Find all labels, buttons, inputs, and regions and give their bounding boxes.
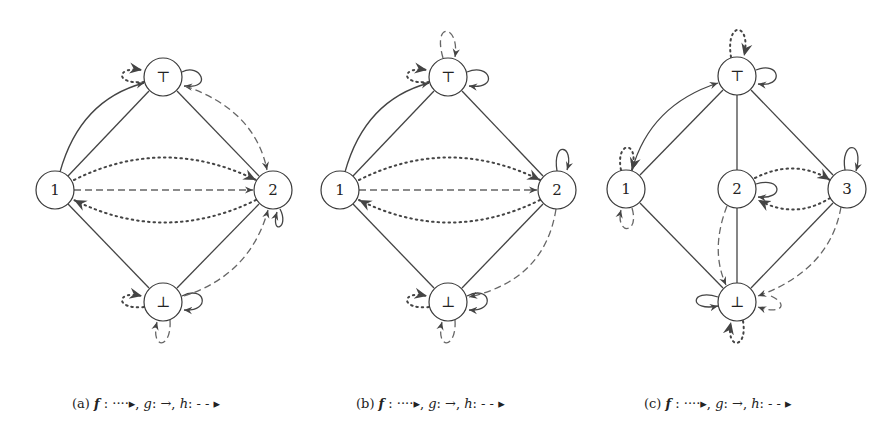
h-loop-bot [758, 296, 781, 310]
caption-g-symbol: : →, [152, 396, 176, 411]
f-edge-1-2 [359, 158, 540, 181]
svg-text:⊤: ⊤ [156, 68, 170, 86]
caption-f-symbol: : ····▸, [671, 396, 711, 411]
g-edge-1-top [60, 83, 144, 172]
h-loop-bot [441, 320, 456, 343]
svg-text:⊤: ⊤ [730, 67, 744, 85]
f-edge-2-1 [74, 200, 256, 223]
lattice-edge-1-top [640, 90, 723, 175]
h-edge-bot-2 [184, 210, 268, 296]
node-1: 1 [36, 171, 74, 209]
node-bot: ⊥ [144, 283, 182, 321]
svg-text:2: 2 [732, 180, 742, 198]
g-loop-2 [556, 149, 568, 171]
caption-h: h [747, 396, 760, 411]
svg-text:⊥: ⊥ [730, 293, 744, 311]
caption-g: g [711, 396, 723, 411]
panel-c: ⊤ 1 2 3 ⊥ [607, 30, 866, 343]
panel-a: ⊤ 1 2 ⊥ [36, 58, 292, 343]
caption-c: (c) f : ····▸, g: →, h: - - ▸ [644, 396, 792, 411]
caption-b: (b) f : ····▸, g: →, h: - - ▸ [356, 396, 505, 411]
node-1: 1 [321, 171, 359, 209]
caption-h: h [176, 396, 189, 411]
caption-h-symbol: : - - ▸ [473, 396, 505, 411]
caption-g: g [139, 396, 151, 411]
f-loop-1 [620, 148, 634, 171]
svg-text:⊥: ⊥ [441, 293, 455, 311]
f-loop-bot [730, 321, 744, 343]
caption-tag: (a) [72, 396, 90, 411]
lattice-edge-1-bot [640, 203, 723, 288]
node-bot: ⊥ [429, 283, 467, 321]
g-loop-top [182, 70, 201, 87]
svg-text:1: 1 [621, 180, 631, 198]
f-edge-1-2 [74, 158, 256, 181]
caption-f-symbol: : ····▸, [100, 396, 140, 411]
f-edge-3-2 [758, 198, 830, 210]
h-edge-3-bot [758, 207, 841, 296]
svg-text:3: 3 [842, 180, 852, 198]
f-loop-top [407, 69, 429, 82]
caption-tag: (c) [644, 396, 661, 411]
caption-f-symbol: : ····▸, [384, 396, 424, 411]
g-loop-2 [756, 182, 777, 197]
svg-text:1: 1 [50, 181, 60, 199]
f-edge-2-1 [359, 200, 540, 223]
node-3: 3 [828, 170, 866, 208]
node-2: 2 [538, 171, 576, 209]
lattice-edge-3-bot [751, 203, 833, 288]
svg-text:⊥: ⊥ [156, 293, 170, 311]
svg-text:2: 2 [268, 181, 278, 199]
lattice-edge-top-2 [462, 91, 543, 176]
node-top: ⊤ [144, 58, 182, 96]
caption-g-symbol: : →, [437, 396, 461, 411]
lattice-edge-2-bot [462, 204, 543, 288]
h-edge-2-bot [469, 209, 556, 297]
g-loop-3 [844, 148, 858, 171]
svg-text:2: 2 [552, 181, 562, 199]
f-loop-top [730, 30, 745, 57]
node-top: ⊤ [718, 57, 756, 95]
f-edge-2-3 [755, 168, 830, 180]
h-loop-1 [620, 208, 634, 229]
caption-g: g [424, 396, 436, 411]
panel-b: ⊤ 1 2 ⊥ [321, 31, 576, 343]
lattice-edge-2-bot [177, 204, 259, 288]
h-loop-bot [156, 320, 171, 343]
g-loop-bot [696, 295, 718, 307]
node-2: 2 [254, 171, 292, 209]
g-loop-top [467, 70, 488, 87]
h-loop-top [440, 31, 455, 58]
h-edge-2-bot [718, 206, 727, 285]
figure-canvas: ⊤ 1 2 ⊥ ⊤ 1 2 ⊥ [0, 0, 890, 426]
g-loop-top [756, 68, 776, 85]
caption-g-symbol: : →, [723, 396, 747, 411]
lattice-edge-1-bot [68, 204, 149, 288]
g-edge-1-top [345, 83, 429, 172]
f-loop-top [122, 69, 144, 82]
svg-text:⊤: ⊤ [441, 68, 455, 86]
lattice-edge-top-2 [177, 91, 259, 176]
lattice-edge-1-top [68, 91, 149, 176]
lattice-edge-top-3 [751, 90, 833, 175]
f-loop-bot [122, 295, 144, 307]
g-loop-2 [275, 209, 282, 227]
g-edge-1-top [632, 83, 718, 170]
node-1: 1 [607, 170, 645, 208]
caption-h-symbol: : - - ▸ [760, 396, 792, 411]
svg-text:1: 1 [335, 181, 345, 199]
caption-h-symbol: : - - ▸ [188, 396, 220, 411]
caption-a: (a) f : ····▸, g: →, h: - - ▸ [72, 396, 220, 411]
lattice-edge-1-bot [353, 204, 434, 288]
node-bot: ⊥ [718, 283, 756, 321]
h-edge-top-2 [185, 86, 267, 170]
caption-tag: (b) [356, 396, 374, 411]
lattice-edge-1-top [353, 91, 434, 176]
f-loop-bot [407, 295, 429, 307]
node-2: 2 [718, 170, 756, 208]
caption-h: h [460, 396, 473, 411]
node-top: ⊤ [429, 58, 467, 96]
